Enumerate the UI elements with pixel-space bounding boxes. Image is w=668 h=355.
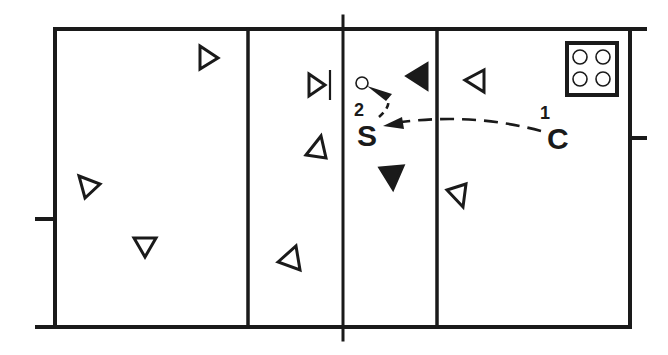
player-icon-left-3 <box>306 136 326 158</box>
player-icon-left-4 <box>79 176 100 198</box>
path-step-2 <box>367 86 392 117</box>
step-2-label: 2 <box>354 101 364 119</box>
player-icon-left-5 <box>134 238 156 257</box>
player-icon-left-1 <box>200 46 218 69</box>
player-icon-right-4 <box>447 184 466 207</box>
player-icon-right-3-filled <box>380 166 403 189</box>
step-1-label: 1 <box>540 104 550 122</box>
player-icon-left-2-blocking <box>309 70 330 100</box>
player-icon-right-1-filled <box>407 64 427 89</box>
setter-label: S <box>357 121 377 151</box>
volleyball-court-diagram <box>0 0 668 355</box>
path-step-1 <box>383 117 541 131</box>
player-icon-left-6 <box>278 246 300 270</box>
ball-cart-icon <box>567 43 617 95</box>
ball-icon <box>356 77 368 89</box>
coach-label: C <box>547 124 569 154</box>
player-icon-right-2 <box>465 70 484 92</box>
